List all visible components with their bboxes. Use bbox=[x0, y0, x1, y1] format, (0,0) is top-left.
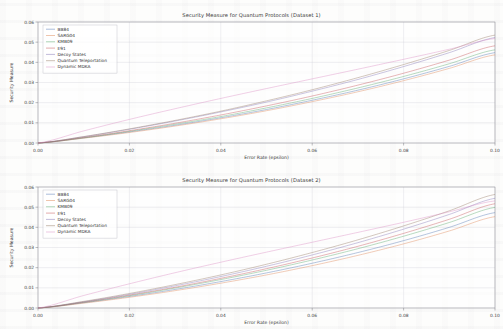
y-tick-label: 0.03 bbox=[24, 80, 34, 85]
x-axis-label: Error Rate (epsilon) bbox=[244, 155, 289, 160]
x-axis-label: Error Rate (epsilon) bbox=[244, 320, 289, 325]
figure-dataset-2: Security Measure for Quantum Protocols (… bbox=[0, 165, 503, 329]
x-tick-label: 0.04 bbox=[216, 313, 226, 318]
y-tick-label: 0.01 bbox=[24, 285, 34, 290]
x-tick-label: 0.10 bbox=[490, 148, 500, 153]
legend-label-6: Dynamic MDKA bbox=[58, 229, 91, 234]
y-tick-label: 0.02 bbox=[24, 100, 34, 105]
y-tick-label: 0.05 bbox=[24, 40, 34, 45]
legend-label-2: KMB09 bbox=[58, 39, 73, 44]
x-tick-label: 0.06 bbox=[307, 313, 317, 318]
y-tick-label: 0.03 bbox=[24, 245, 34, 250]
chart-canvas-2: 0.000.020.040.060.080.100.000.010.020.03… bbox=[0, 165, 503, 329]
x-tick-label: 0.00 bbox=[33, 148, 43, 153]
x-tick-label: 0.00 bbox=[33, 313, 43, 318]
y-tick-label: 0.06 bbox=[24, 185, 34, 190]
legend-label-1: SARG04 bbox=[58, 198, 76, 203]
legend-label-0: BB84 bbox=[58, 27, 70, 32]
legend-label-3: E91 bbox=[58, 211, 66, 216]
legend-label-3: E91 bbox=[58, 46, 66, 51]
chart-canvas-1: 0.000.020.040.060.080.100.000.010.020.03… bbox=[0, 0, 503, 164]
x-tick-label: 0.08 bbox=[399, 313, 409, 318]
x-tick-label: 0.02 bbox=[125, 148, 135, 153]
legend-label-4: Decoy States bbox=[58, 52, 87, 57]
y-tick-label: 0.05 bbox=[24, 205, 34, 210]
figure-dataset-1: Security Measure for Quantum Protocols (… bbox=[0, 0, 503, 164]
y-tick-label: 0.00 bbox=[24, 306, 34, 311]
x-tick-label: 0.04 bbox=[216, 148, 226, 153]
x-tick-label: 0.06 bbox=[307, 148, 317, 153]
y-tick-label: 0.00 bbox=[24, 141, 34, 146]
x-tick-label: 0.08 bbox=[399, 148, 409, 153]
y-tick-label: 0.04 bbox=[24, 60, 34, 65]
legend-label-4: Decoy States bbox=[58, 217, 87, 222]
y-axis-label: Security Measure bbox=[9, 62, 14, 102]
legend-label-1: SARG04 bbox=[58, 33, 76, 38]
x-tick-label: 0.10 bbox=[490, 313, 500, 318]
legend-label-2: KMB09 bbox=[58, 204, 73, 209]
y-tick-label: 0.04 bbox=[24, 225, 34, 230]
legend-label-0: BB84 bbox=[58, 192, 70, 197]
legend-label-5: Quantum Teleportation bbox=[58, 58, 108, 63]
legend-label-5: Quantum Teleportation bbox=[58, 223, 108, 228]
legend-label-6: Dynamic MDKA bbox=[58, 64, 91, 69]
y-tick-label: 0.06 bbox=[24, 20, 34, 25]
y-tick-label: 0.01 bbox=[24, 120, 34, 125]
x-tick-label: 0.02 bbox=[125, 313, 135, 318]
y-tick-label: 0.02 bbox=[24, 265, 34, 270]
y-axis-label: Security Measure bbox=[9, 227, 14, 267]
